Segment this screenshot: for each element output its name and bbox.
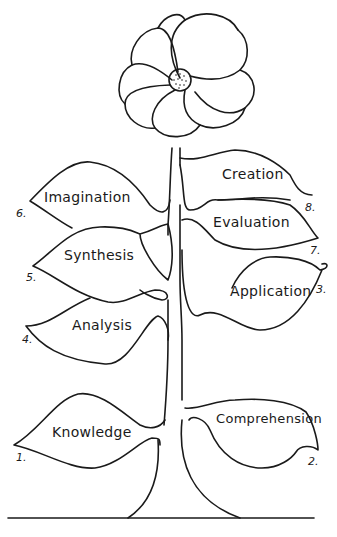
diagram-drawing — [0, 0, 337, 537]
leaf-number-5: 5. — [26, 272, 37, 283]
leaf-label-imagination: Imagination — [44, 190, 131, 204]
leaf-number-6: 6. — [16, 208, 27, 219]
leaf-label-comprehension: Comprehension — [216, 412, 322, 425]
leaf-number-1: 1. — [16, 452, 27, 463]
stem-left-edge — [128, 148, 172, 518]
leaf-number-3: 3. — [316, 284, 327, 295]
leaf-synthesis — [33, 224, 172, 302]
leaf-label-knowledge: Knowledge — [52, 425, 132, 439]
leaf-label-application: Application — [230, 284, 312, 298]
leaf-label-evaluation: Evaluation — [213, 215, 290, 229]
leaf-comprehension — [185, 399, 318, 468]
flower-diagram: Imagination 6. Synthesis 5. Analysis 4. … — [0, 0, 337, 537]
leaf-number-8: 8. — [305, 202, 316, 213]
flower-icon — [119, 14, 254, 137]
stem-right-edge — [180, 148, 240, 518]
leaf-number-2: 2. — [308, 456, 319, 467]
leaf-number-7: 7. — [310, 245, 321, 256]
leaf-number-4: 4. — [22, 334, 33, 345]
leaf-label-analysis: Analysis — [72, 318, 132, 332]
flower-seeds — [173, 73, 187, 89]
leaf-label-creation: Creation — [222, 167, 284, 181]
leaf-label-synthesis: Synthesis — [64, 248, 134, 262]
